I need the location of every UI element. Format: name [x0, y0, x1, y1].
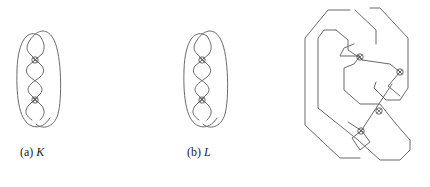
panel-c-diagram [300, 0, 430, 187]
caption-b: (b) L [187, 145, 211, 160]
virtual-crossing-icon [397, 69, 403, 75]
virtual-crossing-icon [32, 57, 38, 63]
caption-label: (b) [187, 145, 201, 159]
panel-a-knot-k: (a) K [0, 0, 140, 187]
panel-b-knot-l: (b) L [167, 0, 307, 187]
caption-symbol: L [204, 145, 211, 159]
virtual-crossing-icon [199, 97, 205, 103]
virtual-crossing-icon [376, 108, 382, 114]
caption-a: (a) K [20, 145, 44, 160]
virtual-crossing-icon [358, 128, 364, 134]
caption-symbol: K [36, 145, 44, 159]
virtual-crossing-icon [32, 97, 38, 103]
virtual-crossing-icon [199, 57, 205, 63]
virtual-knot-diagram [300, 0, 430, 187]
caption-label: (a) [20, 145, 33, 159]
